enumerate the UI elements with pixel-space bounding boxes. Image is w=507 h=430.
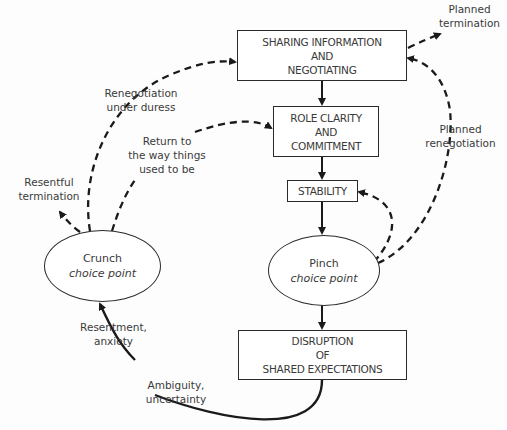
node-crunch-title: Crunch	[83, 251, 122, 266]
node-sharing-line-1: SHARING INFORMATION	[262, 35, 381, 49]
label-line: Planned	[418, 122, 503, 136]
label-line: used to be	[122, 162, 212, 176]
label-return-to-way-things: Return to the way things used to be	[122, 134, 212, 176]
node-disruption-line-3: SHARED EXPECTATIONS	[263, 362, 383, 376]
label-line: uncertainty	[140, 392, 212, 406]
label-renegotiation-under-duress: Renegotiation under duress	[96, 86, 186, 114]
node-stability-label: STABILITY	[298, 184, 347, 198]
node-stability: STABILITY	[287, 180, 358, 202]
node-disruption-line-2: OF	[316, 348, 330, 362]
node-sharing-line-3: NEGOTIATING	[288, 63, 357, 77]
label-line: termination	[14, 189, 84, 203]
label-line: Ambiguity,	[140, 378, 212, 392]
label-line: Planned	[432, 2, 507, 16]
node-pinch-subtitle: choice point	[290, 271, 357, 286]
label-line: Renegotiation	[96, 86, 186, 100]
label-line: renegotiation	[418, 136, 503, 150]
node-crunch-subtitle: choice point	[69, 266, 136, 281]
label-line: Resentful	[14, 175, 84, 189]
arrow-return-to-way-things	[112, 180, 135, 231]
node-role-line-2: AND	[315, 125, 337, 139]
pinch-crunch-model-diagram: SHARING INFORMATION AND NEGOTIATING ROLE…	[0, 0, 507, 430]
label-line: anxiety	[76, 334, 151, 348]
arrow-return-to-way-things-upper	[195, 122, 271, 132]
label-planned-termination: Planned termination	[432, 2, 507, 30]
node-role-line-3: COMMITMENT	[291, 139, 361, 153]
label-line: Return to	[122, 134, 212, 148]
node-sharing-information: SHARING INFORMATION AND NEGOTIATING	[237, 30, 407, 81]
node-pinch-choice-point: Pinch choice point	[268, 235, 380, 306]
label-resentful-termination: Resentful termination	[14, 175, 84, 203]
label-line: Resentment,	[76, 320, 151, 334]
node-role-line-1: ROLE CLARITY	[290, 111, 362, 125]
label-resentment-anxiety: Resentment, anxiety	[76, 320, 151, 348]
node-crunch-choice-point: Crunch choice point	[44, 230, 161, 302]
label-line: under duress	[96, 100, 186, 114]
label-line: termination	[432, 16, 507, 30]
node-sharing-line-2: AND	[311, 49, 333, 63]
label-ambiguity-uncertainty: Ambiguity, uncertainty	[140, 378, 212, 406]
node-pinch-title: Pinch	[309, 256, 338, 271]
label-line: the way things	[122, 148, 212, 162]
node-role-clarity: ROLE CLARITY AND COMMITMENT	[273, 106, 379, 157]
label-planned-renegotiation: Planned renegotiation	[418, 122, 503, 150]
arrow-resentful-termination	[60, 212, 80, 232]
node-disruption: DISRUPTION OF SHARED EXPECTATIONS	[238, 330, 407, 380]
node-disruption-line-1: DISRUPTION	[292, 334, 354, 348]
arrow-planned-renegotiation	[378, 58, 451, 263]
arrow-planned-termination	[408, 34, 440, 48]
